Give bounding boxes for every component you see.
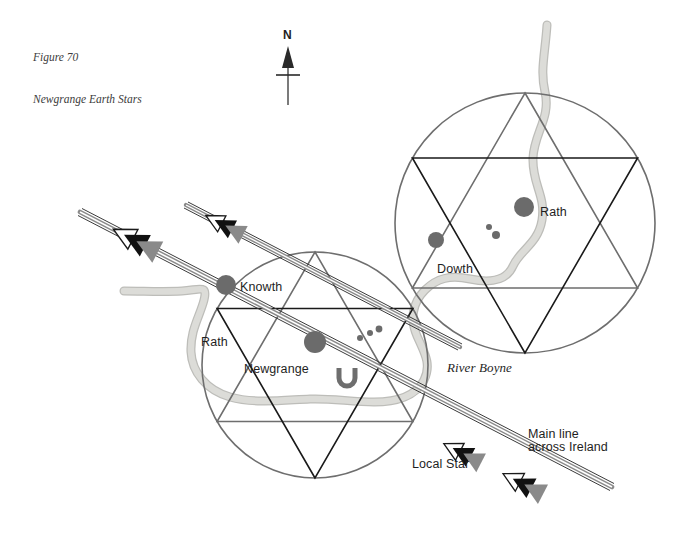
upper-star-circle: [395, 93, 655, 353]
label-rath-upper: Rath: [540, 205, 567, 219]
caption-line-2: Newgrange Earth Stars: [33, 92, 142, 106]
arrow-triple-topleft-main: [108, 219, 163, 263]
label-newgrange: Newgrange: [244, 362, 309, 376]
main-line-label-line1: Main line: [528, 428, 608, 441]
site-markers: [216, 197, 534, 353]
horseshoe-marker: [339, 368, 355, 386]
figure-canvas: Figure 70 Newgrange Earth Stars N Rath D…: [0, 0, 694, 540]
site-marker-rath-upper[interactable]: [514, 197, 534, 217]
minor-star-dot: [492, 231, 500, 239]
site-marker-knowth[interactable]: [216, 275, 236, 295]
figure-caption: Figure 70 Newgrange Earth Stars: [33, 22, 142, 134]
arrow-triple-main-line-ireland: [498, 464, 548, 504]
label-main-line-across-ireland: Main line across Ireland: [528, 428, 608, 453]
north-label: N: [283, 28, 292, 42]
label-knowth: Knowth: [240, 280, 282, 294]
site-marker-dowth[interactable]: [428, 232, 444, 248]
main-line-label-line2: across Ireland: [528, 441, 608, 454]
minor-star-dot: [357, 335, 363, 341]
minor-star-dot: [486, 224, 492, 230]
minor-star-dot: [376, 326, 383, 333]
caption-line-1: Figure 70: [33, 50, 142, 64]
label-dowth: Dowth: [437, 262, 473, 276]
label-river-boyne: River Boyne: [447, 360, 512, 376]
site-marker-newgrange[interactable]: [304, 331, 326, 353]
upper-star-triangle-up: [412, 93, 637, 288]
label-local-star: Local Star: [412, 457, 469, 471]
minor-star-dot: [367, 330, 373, 336]
label-rath-lower: Rath: [201, 335, 228, 349]
upper-earth-star: [395, 93, 655, 353]
north-arrow-icon: [276, 46, 300, 105]
